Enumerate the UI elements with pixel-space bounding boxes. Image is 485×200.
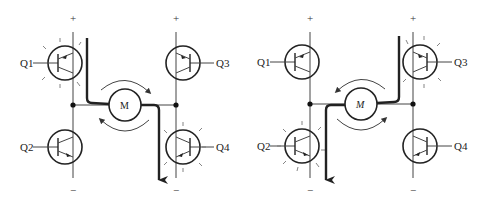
- q2-label: Q2: [20, 141, 33, 153]
- motor: M: [109, 89, 141, 121]
- motor-label: M: [355, 99, 365, 110]
- q4-label: Q4: [454, 140, 468, 152]
- current-path-arrow-icon: [141, 105, 159, 180]
- junction-dot: [307, 101, 312, 106]
- left-h-bridge: + + − − Q1: [20, 12, 230, 196]
- left-negative-terminal: −: [70, 184, 76, 196]
- motor-label: M: [120, 100, 129, 111]
- q2-label: Q2: [257, 140, 270, 152]
- h-bridge-diagram: + + − − Q1: [0, 0, 485, 200]
- current-path-arrow-icon: [326, 105, 345, 180]
- motor: M: [345, 88, 377, 120]
- right-positive-terminal-right: +: [410, 12, 416, 24]
- q3-label: Q3: [454, 56, 468, 68]
- right-positive-terminal: +: [307, 12, 313, 24]
- rotation-arrow-icon: [101, 80, 149, 92]
- current-path: [87, 38, 109, 104]
- junction-dot: [410, 101, 415, 106]
- q1-label: Q1: [20, 57, 33, 69]
- left-positive-terminal: +: [70, 12, 76, 24]
- q4-label: Q4: [216, 141, 230, 153]
- right-negative-terminal: −: [307, 184, 313, 196]
- transistor-q2: Q2: [257, 121, 325, 171]
- right-negative-terminal-right: −: [410, 184, 416, 196]
- q3-label: Q3: [216, 57, 230, 69]
- left-negative-terminal-right: −: [173, 184, 179, 196]
- q1-label: Q1: [257, 56, 270, 68]
- left-positive-terminal-right: +: [173, 12, 179, 24]
- current-path: [377, 36, 399, 103]
- rotation-arrow-icon: [337, 79, 385, 91]
- junction-dot: [173, 102, 178, 107]
- junction-dot: [70, 102, 75, 107]
- transistor-q4: Q4: [164, 122, 230, 172]
- right-h-bridge: + + − − Q1: [257, 12, 468, 196]
